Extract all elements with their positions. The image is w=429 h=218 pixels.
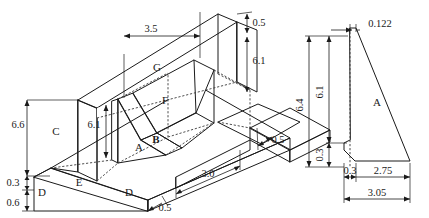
dim-0.3-section-text: 0.3 <box>314 148 325 161</box>
face-label-B: B <box>152 133 160 145</box>
dim-6.1-section-text: 6.1 <box>314 85 325 98</box>
isometric-view: 3.5 6.6 0.3 0.6 <box>6 12 330 213</box>
cross-section-view: 0.122 6.4 6.1 0.3 <box>294 18 410 203</box>
base-dark-strip <box>176 140 250 188</box>
dim-0.5-toe-text: 0.5 <box>271 134 284 145</box>
wedge-right-face <box>157 113 214 148</box>
face-label-D1: D <box>38 186 46 198</box>
dim-2.75: 2.75 <box>356 163 410 182</box>
dim-6.1-section: 6.1 <box>314 36 347 143</box>
face-label-D2: D <box>125 186 133 198</box>
dim-0.6-text: 0.6 <box>6 197 19 208</box>
hidden-line-9 <box>218 122 250 128</box>
dim-3.0: 3.0 <box>176 150 240 198</box>
engineering-drawing-svg: 3.5 6.6 0.3 0.6 <box>0 0 429 218</box>
dim-6.4: 6.4 <box>294 36 348 167</box>
dim-2.75-text: 2.75 <box>374 165 392 176</box>
dim-0.3-heel-text: 0.3 <box>343 165 356 176</box>
dim-6.6-text: 6.6 <box>11 119 24 130</box>
dim-3.05-text: 3.05 <box>368 187 386 198</box>
section-face-label-A: A <box>373 96 381 108</box>
dim-6.1-buttress-text: 6.1 <box>87 119 100 130</box>
back-wall-front-face <box>78 100 97 181</box>
face-label-F: F <box>162 94 168 106</box>
dim-0.3-heel: 0.3 <box>343 163 356 182</box>
drawing-canvas: 3.5 6.6 0.3 0.6 <box>0 0 429 218</box>
hidden-line-5 <box>97 163 118 181</box>
dim-6.6: 6.6 <box>11 100 78 176</box>
dim-0.6: 0.6 <box>6 190 34 211</box>
dim-0.122: 0.122 <box>331 18 392 33</box>
dim-6.1-stem-text: 6.1 <box>252 55 265 66</box>
dim-3.05: 3.05 <box>344 182 410 203</box>
dim-0.5-stem-top-text: 0.5 <box>252 17 265 28</box>
dim-0.5-base-front-text: 0.5 <box>158 202 171 213</box>
dim-3.5-text: 3.5 <box>144 23 157 34</box>
base-slab-front-right <box>148 138 290 211</box>
face-label-G: G <box>153 61 161 73</box>
dim-6.1-stem: 6.1 <box>245 37 266 92</box>
hidden-line-4 <box>51 160 112 168</box>
face-label-E: E <box>76 176 83 188</box>
dim-6.4-text: 6.4 <box>294 98 305 112</box>
dim-0.3-iso-text: 0.3 <box>6 177 19 188</box>
face-label-C: C <box>52 125 59 137</box>
dim-0.5-stem-top: 0.5 <box>237 12 266 33</box>
dim-3.0-text: 3.0 <box>201 168 214 179</box>
section-profile <box>344 28 410 161</box>
hidden-line-3 <box>168 123 214 137</box>
dim-0.122-text: 0.122 <box>368 18 392 29</box>
hidden-line-2 <box>118 73 168 163</box>
dim-0.3-iso: 0.3 <box>6 176 34 190</box>
hidden-line-6 <box>166 123 214 155</box>
face-label-A: A <box>135 141 143 153</box>
dim-0.3-section: 0.3 <box>314 143 332 167</box>
